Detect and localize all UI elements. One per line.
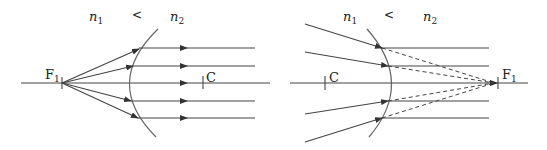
left-ray-arrow <box>180 80 188 86</box>
left-incident-ray <box>62 66 133 83</box>
left-center-label: C <box>206 70 216 85</box>
left-focus-label: F1 <box>45 67 60 84</box>
right-incident-ray <box>305 101 388 114</box>
right-incident-ray <box>305 24 382 48</box>
left-diagram: n1 < n2 F1 C <box>21 8 270 137</box>
right-center-label: C <box>329 70 339 85</box>
left-relation-symbol: < <box>132 8 142 22</box>
left-ray-arrow <box>180 115 188 121</box>
right-virtual-ray-extension <box>388 83 494 101</box>
right-n2-label: n2 <box>423 9 437 26</box>
right-diagram: n1 < n2 C F1 <box>290 8 528 142</box>
left-n2-label: n2 <box>170 9 184 26</box>
right-incident-ray <box>305 118 382 142</box>
right-incident-ray <box>305 52 388 66</box>
left-n1-label: n1 <box>89 9 103 26</box>
left-ray-arrow <box>180 98 188 104</box>
refraction-diagrams: n1 < n2 F1 C n1 < n2 <box>0 0 547 150</box>
left-incident-ray <box>62 49 139 83</box>
right-relation-symbol: < <box>384 8 394 22</box>
left-ray-arrow <box>180 45 188 51</box>
left-incident-ray <box>62 83 138 118</box>
right-virtual-ray-extension <box>388 66 494 83</box>
right-n1-label: n1 <box>343 9 357 26</box>
right-focus-label: F1 <box>502 67 517 84</box>
left-ray-arrow <box>180 63 188 69</box>
